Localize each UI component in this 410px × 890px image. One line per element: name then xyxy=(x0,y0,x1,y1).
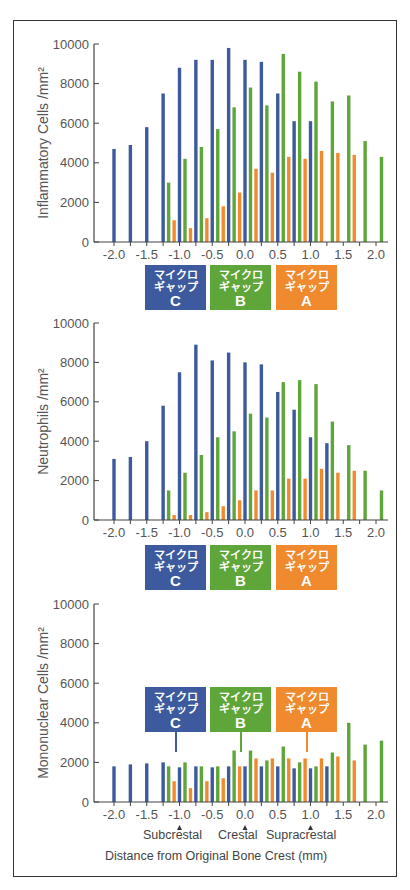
bar xyxy=(194,766,197,802)
bar xyxy=(336,756,339,802)
bar xyxy=(380,741,383,802)
x-tick-label: 0.5 xyxy=(269,807,287,822)
y-tick-label: 0 xyxy=(82,795,89,810)
bar xyxy=(260,766,263,802)
bar xyxy=(298,762,301,802)
legend-callout-microgap-c: マイクロ ギャップ C xyxy=(145,687,206,732)
y-tick-label: 10000 xyxy=(53,597,89,612)
bar xyxy=(353,760,356,802)
tag-letter: C xyxy=(145,573,206,589)
legend-tag-microgap-c: マイクロ ギャップ C xyxy=(145,265,206,310)
bar xyxy=(287,758,290,802)
tag-line1: マイクロ xyxy=(285,269,329,281)
bar xyxy=(314,766,317,802)
y-tick-label: 8000 xyxy=(60,636,89,651)
x-tick-label: 1.0 xyxy=(301,807,319,822)
annotation-crestal: Crestal xyxy=(218,828,258,842)
bar xyxy=(265,760,268,802)
x-axis-title: Distance from Original Bone Crest (mm) xyxy=(105,849,327,863)
legend-tag-microgap-c: マイクロ ギャップ C xyxy=(145,545,206,590)
tag-letter: B xyxy=(210,573,271,589)
tag-line1: マイクロ xyxy=(285,691,329,703)
bar xyxy=(167,766,170,802)
legend-callout-microgap-a: マイクロ ギャップ A xyxy=(276,687,337,732)
legend-tag-microgap-b: マイクロ ギャップ B xyxy=(210,265,271,310)
tag-letter: C xyxy=(145,715,206,731)
bar xyxy=(189,788,192,802)
bar xyxy=(282,747,285,802)
y-axis-title: Mononuclear Cells /mm² xyxy=(35,627,51,779)
bar xyxy=(200,766,203,802)
bar xyxy=(178,767,181,802)
tag-letter: A xyxy=(276,715,337,731)
bar xyxy=(112,766,115,802)
annotation-supracrestal: Supracrestal xyxy=(266,828,336,842)
bar xyxy=(216,766,219,802)
bar xyxy=(276,766,279,802)
bar xyxy=(325,766,328,802)
x-tick-label: -0.5 xyxy=(201,807,223,822)
bar xyxy=(211,767,214,802)
bar xyxy=(172,781,175,802)
legend-tag-microgap-a: マイクロ ギャップ A xyxy=(276,545,337,590)
tag-line1: マイクロ xyxy=(154,549,198,561)
legend-tag-microgap-b: マイクロ ギャップ B xyxy=(210,545,271,590)
bar xyxy=(331,753,334,803)
tag-line1: マイクロ xyxy=(219,269,263,281)
x-tick-label: 2.0 xyxy=(367,807,385,822)
tag-letter: B xyxy=(210,715,271,731)
bar xyxy=(309,768,312,802)
callout-pointer xyxy=(240,732,242,752)
y-tick-label: 4000 xyxy=(60,715,89,730)
bar xyxy=(347,723,350,802)
bar xyxy=(249,751,252,802)
bar xyxy=(238,766,241,802)
bar xyxy=(303,758,306,802)
bar xyxy=(243,766,246,802)
legend-tag-microgap-a: マイクロ ギャップ A xyxy=(276,265,337,310)
y-tick-label: 6000 xyxy=(60,676,89,691)
callout-pointer xyxy=(175,732,177,752)
bar xyxy=(183,762,186,802)
x-tick-label: 1.5 xyxy=(334,807,352,822)
tag-line1: マイクロ xyxy=(154,691,198,703)
bar xyxy=(222,778,225,802)
tag-line1: マイクロ xyxy=(219,691,263,703)
x-tick-label: -1.0 xyxy=(168,807,190,822)
bar xyxy=(227,766,230,802)
tag-letter: A xyxy=(276,573,337,589)
tag-line1: マイクロ xyxy=(219,549,263,561)
x-tick-label: -2.0 xyxy=(103,807,125,822)
tag-letter: A xyxy=(276,293,337,309)
bar xyxy=(363,745,366,802)
tag-letter: C xyxy=(145,293,206,309)
bar xyxy=(320,758,323,802)
bar xyxy=(129,764,132,802)
bar xyxy=(161,762,164,802)
x-tick-label: -1.5 xyxy=(136,807,158,822)
tag-line1: マイクロ xyxy=(285,549,329,561)
callout-pointer xyxy=(306,732,308,752)
x-tick-label: 0.0 xyxy=(236,807,254,822)
bar xyxy=(205,781,208,802)
tag-line1: マイクロ xyxy=(154,269,198,281)
bar xyxy=(145,763,148,802)
bar xyxy=(254,758,257,802)
bar xyxy=(292,768,295,802)
annotation-subcrestal: Subcrestal xyxy=(143,828,202,842)
y-tick-label: 2000 xyxy=(60,755,89,770)
legend-callout-microgap-b: マイクロ ギャップ B xyxy=(210,687,271,732)
bar xyxy=(232,751,235,802)
chart-mononuclear-cells: 0200040006000800010000-2.0-1.5-1.0-0.50.… xyxy=(0,0,410,890)
tag-letter: B xyxy=(210,293,271,309)
bar xyxy=(271,758,274,802)
